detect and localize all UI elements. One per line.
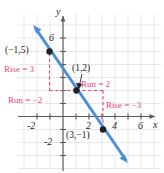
x-axis-label: x — [153, 120, 157, 130]
grid-lines — [18, 14, 161, 171]
y-tick-label-neg2: -2 — [44, 137, 52, 147]
point-marker-3-minus1 — [100, 126, 106, 132]
annotation-rise-neg3: Rise = −3 — [106, 101, 141, 110]
annotation-run-2: Run = 2 — [81, 80, 110, 89]
point-label-minus1-5: (−1,5) — [5, 46, 29, 56]
point-label-3-minus1: (3,−1) — [66, 131, 90, 141]
annotation-run-neg2: Run = −2 — [8, 96, 42, 105]
x-tick-label-neg2: -2 — [27, 121, 35, 131]
point-marker-minus1-5 — [46, 48, 52, 54]
x-tick-label-4: 4 — [112, 121, 117, 131]
axis-lines — [18, 16, 155, 171]
point-label-1-2: (1,2) — [72, 64, 90, 74]
y-tick-label-6: 6 — [49, 33, 54, 43]
x-tick-label-6: 6 — [138, 121, 143, 131]
y-axis-label: y — [56, 7, 60, 17]
graph-figure: y x 6 -2 -2 2 4 6 (−1,5) (1,2) (3,−1) Ri… — [0, 0, 164, 173]
annotation-rise-3: Rise = 3 — [4, 65, 34, 74]
y-axis-arrowhead — [61, 16, 66, 22]
